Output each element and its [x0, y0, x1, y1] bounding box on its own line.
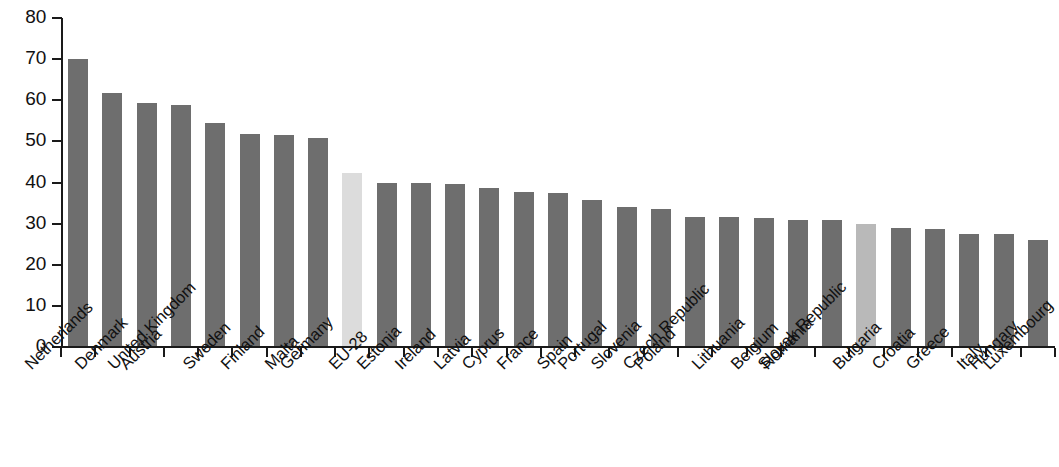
x-axis-tick: [1020, 348, 1022, 357]
x-axis-tick: [60, 348, 62, 357]
x-axis-tick: [951, 348, 953, 357]
bar-latvia[interactable]: [445, 184, 465, 347]
bar-italy[interactable]: [959, 234, 979, 347]
bar-eu-28[interactable]: [342, 173, 362, 347]
x-axis-tick: [1054, 348, 1056, 357]
y-axis-tick-label: 40: [0, 171, 46, 193]
x-axis-tick: [677, 348, 679, 357]
y-axis-tick-label: 30: [0, 212, 46, 234]
bar-ireland[interactable]: [411, 183, 431, 347]
y-axis-tick-label: 20: [0, 253, 46, 275]
bar-denmark[interactable]: [102, 93, 122, 347]
bar-malta[interactable]: [274, 135, 294, 347]
y-axis-tick-label: 70: [0, 47, 46, 69]
bar-spain[interactable]: [548, 193, 568, 347]
x-axis-tick: [814, 348, 816, 357]
y-axis-tick-label: 10: [0, 294, 46, 316]
y-axis-tick-label: 80: [0, 6, 46, 28]
bar-finland[interactable]: [240, 134, 260, 347]
y-axis-tick-label: 60: [0, 88, 46, 110]
x-axis-tick: [163, 348, 165, 357]
bars-container: [61, 18, 1055, 347]
bar-cyprus[interactable]: [479, 188, 499, 347]
bar-chart: 01020304050607080 NetherlandsDenmarkAust…: [0, 0, 1059, 467]
bar-sweden[interactable]: [205, 123, 225, 347]
bar-estonia[interactable]: [377, 183, 397, 348]
y-axis-tick-label: 50: [0, 129, 46, 151]
bar-france[interactable]: [514, 192, 534, 347]
